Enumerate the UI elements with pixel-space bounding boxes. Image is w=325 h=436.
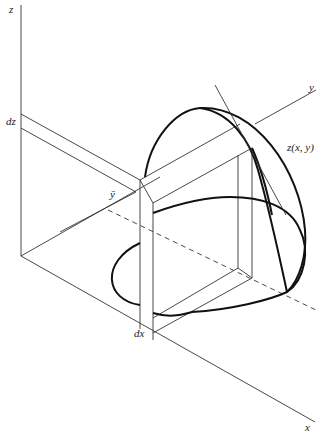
- y-bar-tick: [60, 192, 136, 232]
- slab-corner-diag: [140, 180, 153, 203]
- dx-label: dx: [134, 328, 144, 339]
- y-bar-dashed-line: [108, 210, 318, 311]
- base-slab-end: [238, 268, 252, 278]
- slab-top-back-edge: [140, 124, 240, 180]
- y-bar-label: ȳ: [110, 189, 115, 200]
- x-axis: [21, 256, 315, 422]
- y-axis-label: y: [309, 82, 314, 93]
- dz-slab-bottom: [21, 128, 136, 192]
- dz-slab-top: [21, 114, 140, 180]
- dz-label: dz: [6, 116, 16, 127]
- surface-section-curve: [200, 108, 287, 292]
- diagram-canvas: [0, 0, 325, 436]
- slab-top-front-edge: [153, 148, 252, 203]
- x-axis-label: x: [305, 422, 310, 433]
- base-ellipse: [112, 197, 305, 316]
- surface-label: z(x, y): [287, 142, 314, 153]
- z-axis-label: z: [9, 4, 13, 15]
- y-axis-far: [255, 90, 316, 124]
